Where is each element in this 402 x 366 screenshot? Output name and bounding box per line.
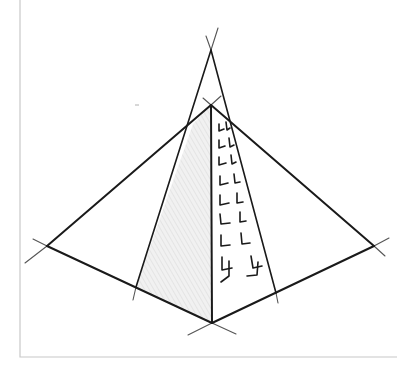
brick-mark [226, 122, 230, 130]
brick-mark [220, 214, 230, 224]
ext-apex-ne-line [211, 96, 221, 105]
ext-right-down-line [374, 246, 385, 256]
apex-bottom-edge [211, 105, 212, 323]
brick-mark [222, 257, 232, 270]
brick-mark [231, 155, 236, 164]
ext-right-up-line [374, 238, 389, 246]
brick-mark [220, 176, 228, 185]
ext-vr-top-line [211, 28, 218, 50]
ext-vl-top-line [206, 36, 211, 50]
brick-mark [219, 124, 224, 131]
brick-pattern-right-face [219, 122, 262, 282]
ext-inner-right-line [276, 293, 278, 303]
ext-left-down-line [25, 246, 47, 263]
ext-inner-left-line [133, 287, 136, 300]
brick-mark [251, 256, 262, 268]
brick-mark [241, 233, 250, 244]
ext-bottom-left-line [188, 323, 212, 335]
brick-mark [219, 157, 226, 165]
brick-mark [229, 138, 234, 147]
ext-bottom-right-line [212, 323, 236, 334]
bottom-right-edge [212, 246, 374, 323]
brick-mark [221, 235, 230, 246]
pyramid-svg [0, 0, 402, 366]
perspective-pyramid-drawing [0, 0, 402, 366]
brick-mark [240, 212, 246, 222]
brick-mark [237, 193, 243, 203]
brick-mark [234, 174, 240, 183]
ext-left-up-line [33, 239, 47, 246]
brick-mark [220, 195, 229, 205]
brick-mark [219, 140, 225, 148]
vanish-inner-right-edge [211, 50, 276, 293]
apex-right-edge [211, 105, 374, 246]
ext-apex-nw-line [203, 98, 211, 105]
